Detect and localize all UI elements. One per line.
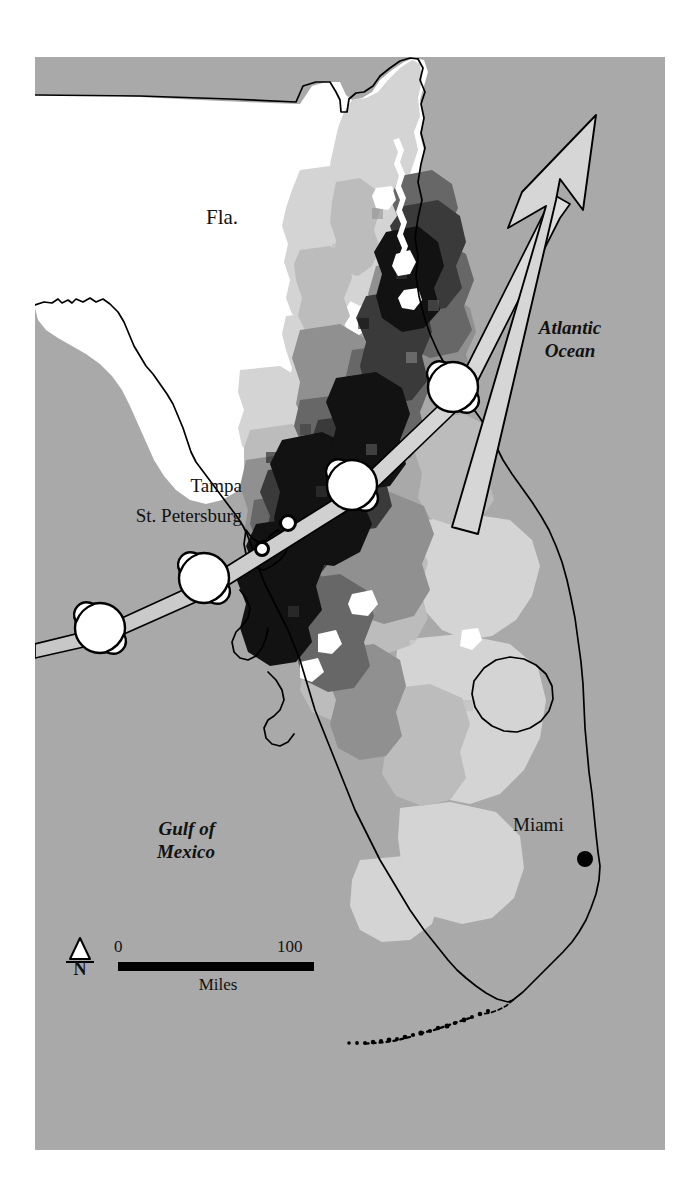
hurricane-track-map: Fla. Atlantic Ocean Gulf of Mexico Tampa… [0, 0, 697, 1195]
map-canvas [0, 0, 697, 1195]
print-grain-overlay [35, 57, 665, 1150]
